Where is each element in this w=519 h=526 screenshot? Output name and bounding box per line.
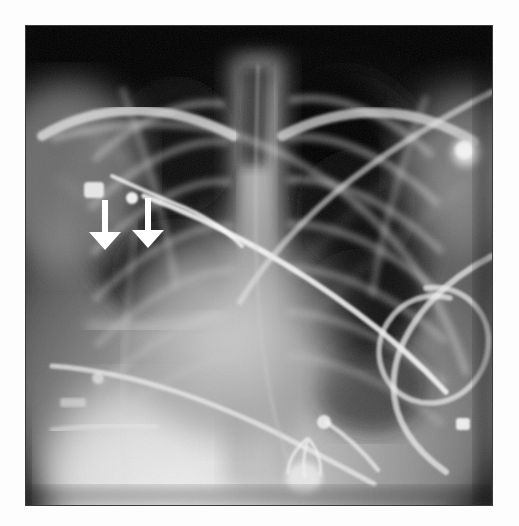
figure-page: [0, 0, 519, 526]
chest-xray-image: [26, 26, 492, 505]
xray-canvas: [26, 26, 492, 505]
film-grain: [26, 26, 492, 505]
